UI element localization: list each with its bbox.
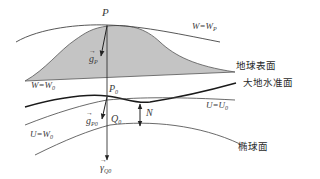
point-label-q0: Q0	[111, 114, 121, 125]
equipotential-label-wp: W=WP	[192, 22, 217, 32]
reference-line-u0	[25, 98, 235, 125]
ellipsoid-label: 椭球面	[238, 142, 268, 152]
vector-label-gp0: gP0	[86, 116, 98, 127]
equipotential-label-w0: W=W0	[31, 81, 55, 91]
ellipsoid-line	[35, 123, 240, 155]
point-label-p0: P0	[109, 84, 118, 95]
geoid-height-label-n: N	[146, 108, 153, 118]
vector-label-gp: gP	[89, 54, 98, 65]
vector-label-gamma-q0: γQ0	[100, 163, 111, 174]
equipotential-label-uw0: U=W0	[30, 130, 53, 140]
geoid-line	[25, 83, 236, 107]
equipotential-label-u0: U=U0	[206, 101, 228, 111]
point-label-p: P	[102, 7, 109, 18]
earth-surface-label: 地球表面	[236, 61, 276, 71]
terrain-shaded-region	[25, 26, 235, 81]
geoid-label: 大地水准面	[243, 78, 293, 88]
